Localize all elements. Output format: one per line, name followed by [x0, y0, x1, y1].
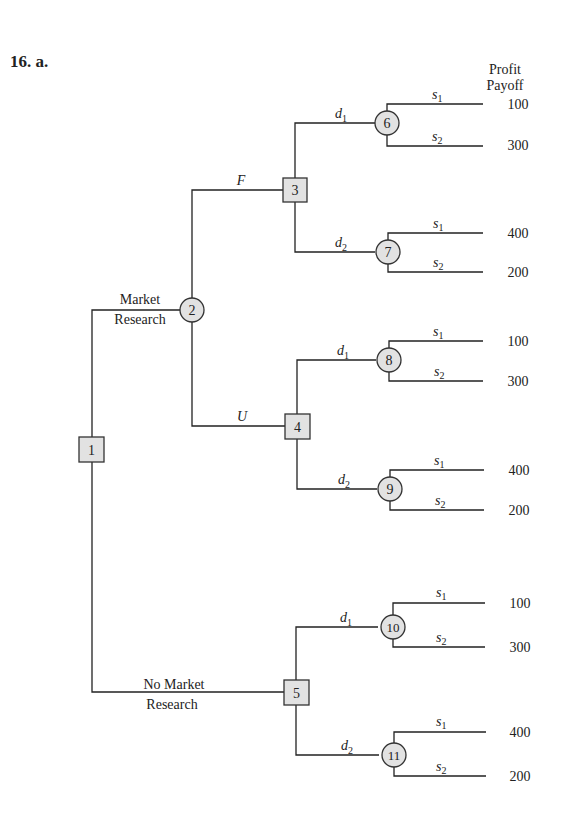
chance-node-10: 10 — [381, 615, 405, 639]
chance-node-8: 8 — [377, 348, 401, 372]
svg-text:s1: s1 — [433, 216, 443, 233]
svg-text:2: 2 — [189, 303, 196, 318]
svg-text:11: 11 — [388, 748, 401, 763]
svg-text:9: 9 — [387, 482, 394, 497]
svg-text:s1: s1 — [436, 714, 446, 731]
decision-node-5: 5 — [284, 680, 309, 705]
svg-text:10: 10 — [387, 620, 400, 635]
chance-node-11: 11 — [382, 743, 406, 767]
svg-text:s1: s1 — [434, 453, 444, 470]
branch-market-research-line2: Research — [114, 312, 165, 327]
payoff-9-s2: 200 — [509, 503, 530, 518]
svg-text:s2: s2 — [436, 630, 446, 647]
payoff-header: Payoff — [486, 78, 523, 93]
svg-text:s2: s2 — [435, 493, 445, 510]
decision-node-3: 3 — [283, 178, 307, 202]
svg-text:s2: s2 — [432, 129, 442, 146]
svg-text:4: 4 — [294, 420, 301, 435]
svg-text:d1: d1 — [337, 343, 349, 361]
decision-node-1: 1 — [79, 437, 104, 462]
payoff-8-s1: 100 — [508, 334, 529, 349]
svg-text:s2: s2 — [436, 759, 446, 776]
svg-text:d2: d2 — [338, 472, 350, 490]
payoff-9-s1: 400 — [509, 463, 530, 478]
svg-text:s2: s2 — [434, 364, 444, 381]
branch-favorable: F — [236, 173, 246, 188]
decision-tree: 1 3 4 5 2 6 7 8 9 10 11 Profit Payo — [0, 0, 563, 831]
payoff-11-s2: 200 — [510, 769, 531, 784]
svg-text:s2: s2 — [433, 255, 443, 272]
chance-node-7: 7 — [376, 240, 400, 264]
svg-text:s1: s1 — [433, 324, 443, 341]
chance-node-6: 6 — [375, 111, 399, 135]
chance-node-9: 9 — [378, 477, 402, 501]
svg-text:8: 8 — [386, 353, 393, 368]
payoff-values: 100 300 400 200 100 300 400 200 100 300 … — [508, 97, 531, 784]
payoff-8-s2: 300 — [508, 374, 529, 389]
svg-text:5: 5 — [293, 686, 300, 701]
svg-text:1: 1 — [88, 443, 95, 458]
svg-text:d1: d1 — [340, 610, 352, 628]
branch-no-market-research-line2: Research — [146, 697, 197, 712]
payoff-6-s1: 100 — [508, 97, 529, 112]
payoff-7-s1: 400 — [508, 226, 529, 241]
branch-unfavorable: U — [237, 409, 248, 424]
svg-text:3: 3 — [292, 183, 299, 198]
payoff-10-s2: 300 — [510, 640, 531, 655]
svg-text:d2: d2 — [335, 235, 347, 253]
state-branch-labels: s1 s2 s1 s2 s1 s2 s1 s2 s1 s2 s1 s2 — [432, 87, 446, 776]
payoff-7-s2: 200 — [508, 265, 529, 280]
svg-text:d1: d1 — [335, 106, 347, 124]
branch-no-market-research-line1: No Market — [143, 677, 204, 692]
svg-text:s1: s1 — [432, 87, 442, 104]
svg-text:d2: d2 — [341, 738, 353, 756]
chance-node-2: 2 — [180, 298, 204, 322]
decision-node-4: 4 — [285, 414, 310, 439]
branch-market-research-line1: Market — [120, 292, 161, 307]
svg-text:s1: s1 — [436, 585, 446, 602]
tree-lines — [92, 104, 486, 776]
svg-text:7: 7 — [385, 245, 392, 260]
payoff-6-s2: 300 — [508, 138, 529, 153]
profit-header: Profit — [489, 62, 521, 77]
svg-text:6: 6 — [384, 116, 391, 131]
payoff-10-s1: 100 — [510, 596, 531, 611]
payoff-11-s1: 400 — [510, 725, 531, 740]
decision-branch-labels: d1 d2 d1 d2 d1 d2 — [335, 106, 353, 756]
